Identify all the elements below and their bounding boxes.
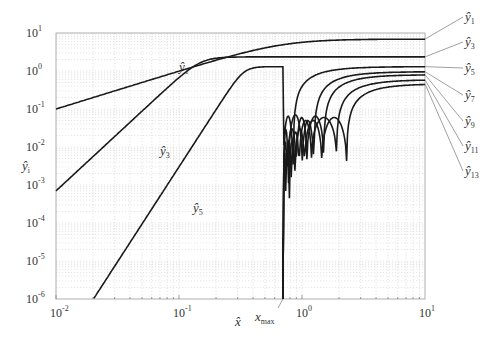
y-tick-label: 10-6 [26, 290, 45, 306]
legend-leader-y1 [425, 17, 463, 39]
y-tick-label: 10-4 [26, 214, 45, 230]
y-tick-label: 10-2 [26, 138, 45, 154]
y-tick-label: 101 [26, 24, 42, 40]
legend-leader-y9 [425, 75, 463, 121]
y-tick-label: 10-5 [26, 252, 45, 268]
curve-label-y5: ŷ5 [191, 200, 203, 217]
xmax-label: xmax [254, 309, 275, 326]
curve-y5 [94, 67, 425, 299]
curve-label-y1: ŷ1 [177, 59, 189, 76]
x-tick-label: 10-1 [173, 304, 192, 320]
y-tick-label: 100 [26, 62, 42, 78]
x-tick-label: 10-2 [50, 304, 69, 320]
legend-label-y11: ŷ11 [463, 138, 478, 155]
x-tick-label: 100 [296, 304, 312, 320]
y-tick-label: 10-1 [26, 100, 45, 116]
legend-leaders [425, 17, 463, 171]
legend-leader-y5 [425, 67, 463, 68]
legend-leader-y3 [425, 42, 463, 57]
chart: 10-210-110010110110010-110-210-310-410-5… [0, 0, 498, 345]
curves [56, 39, 425, 299]
legend-leader-y11 [425, 80, 463, 146]
legend-label-y3: ŷ3 [463, 34, 475, 51]
legend-leader-y7 [425, 72, 463, 95]
curve-label-y3: ŷ3 [158, 143, 170, 160]
legend-label-y5: ŷ5 [463, 60, 475, 77]
y-tick-label: 10-3 [26, 176, 45, 192]
legend-label-y13: ŷ13 [463, 163, 479, 180]
x-tick-label: 101 [419, 304, 435, 320]
legend-label-y7: ŷ7 [463, 87, 475, 104]
xmax-leader [278, 299, 283, 308]
legend-label-y9: ŷ9 [463, 113, 475, 130]
legend-leader-y13 [425, 84, 463, 171]
y-axis-label: ŷi [20, 158, 31, 175]
x-axis-label: x̂ [234, 314, 241, 329]
curve-y11 [283, 80, 425, 299]
legend-label-y1: ŷ1 [463, 9, 475, 26]
